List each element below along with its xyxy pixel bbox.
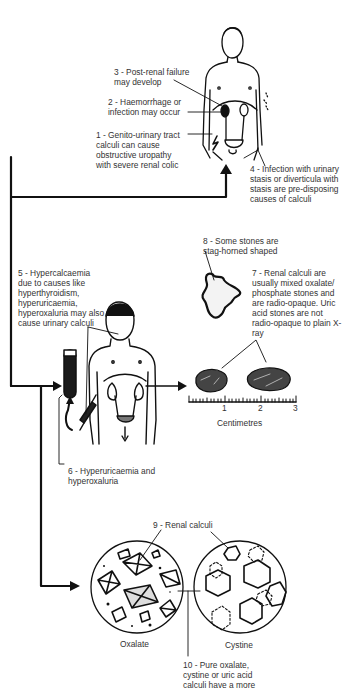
label-9-renal-calculi: 9 - Renal calculi — [153, 520, 213, 530]
ruler-unit-label: Centimetres — [217, 418, 262, 428]
label-1-genito-urinary-calculi: 1 - Genito-urinary tract calculi can cau… — [96, 130, 180, 170]
top-pointer-lines — [174, 80, 265, 166]
blood-sample-tube-icon — [64, 350, 76, 430]
stag-horn-stone-icon — [202, 274, 240, 318]
cystine-crystals-circle-icon — [194, 541, 286, 633]
ruler-tick-3: 3 — [293, 403, 298, 413]
stone-pointer-lines — [222, 340, 266, 368]
ruler-tick-2: 2 — [258, 403, 263, 413]
label-7-renal-calculi-radio-opaque: 7 - Renal calculi are usually mixed oxal… — [252, 268, 341, 338]
label-4-infection-stasis: 4 - Infection with urinary stasis or div… — [250, 164, 339, 204]
label-2-haemorrhage-infection: 2 - Haemorrhage or infection may occur — [108, 97, 181, 117]
x-ray-stones-icon — [196, 368, 290, 392]
oxalate-crystals-circle-icon — [91, 541, 183, 633]
cystine-label: Cystine — [225, 640, 253, 650]
label-10-pure-calculi: 10 - Pure oxalate, cystine or uric acid … — [183, 660, 255, 690]
oxalate-label: Oxalate — [120, 639, 149, 649]
syringe-icon — [80, 395, 96, 430]
label-5-hypercalcaemia: 5 - Hypercalcaemia due to causes like hy… — [18, 268, 104, 328]
label-6-hyperuricaemia: 6 - Hyperuricaemia and hyperoxaluria — [68, 466, 155, 486]
centimetre-ruler-icon — [189, 396, 296, 402]
label-8-stag-horned: 8 - Some stones are stag-horned shaped — [203, 236, 278, 256]
top-body-figure-icon — [203, 28, 268, 160]
middle-pointer-lines — [59, 327, 178, 464]
ruler-tick-1: 1 — [222, 403, 227, 413]
label-3-post-renal-failure: 3 - Post-renal failure may develop — [114, 67, 189, 87]
